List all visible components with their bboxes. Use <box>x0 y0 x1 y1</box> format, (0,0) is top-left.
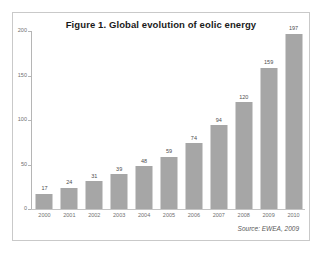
bar[interactable] <box>210 125 227 209</box>
bar[interactable] <box>136 166 153 209</box>
x-axis-tick-label: 2010 <box>287 213 299 219</box>
bar-group[interactable]: 242001 <box>57 31 82 209</box>
bar[interactable] <box>111 174 128 209</box>
figure-frame: Figure 1. Global evolution of eolic ener… <box>12 12 310 241</box>
x-axis-tick-label: 2009 <box>263 213 275 219</box>
x-axis-tick-label: 2004 <box>138 213 150 219</box>
chart-title: Figure 1. Global evolution of eolic ener… <box>13 19 309 30</box>
bar-group[interactable]: 172000 <box>32 31 57 209</box>
x-axis-tick-label: 2001 <box>63 213 75 219</box>
bar-value-label: 48 <box>141 159 147 165</box>
bar-value-label: 39 <box>116 167 122 173</box>
plot-area: 050100150200 172000242001312002392003482… <box>31 31 305 209</box>
bar[interactable] <box>86 181 103 209</box>
y-axis-tick-label: 150 <box>18 73 27 79</box>
bar[interactable] <box>61 188 78 209</box>
x-axis-tick-label: 2005 <box>163 213 175 219</box>
y-axis-tick-label: 200 <box>18 28 27 34</box>
x-axis-tick-label: 2006 <box>188 213 200 219</box>
y-axis-tick-label: 50 <box>21 162 27 168</box>
bar-group[interactable]: 1202008 <box>231 31 256 209</box>
x-axis-line <box>31 209 305 210</box>
bar-value-label: 159 <box>264 60 273 66</box>
bar-value-label: 31 <box>91 174 97 180</box>
y-axis-tick-label: 0 <box>24 206 27 212</box>
bar-value-label: 59 <box>166 149 172 155</box>
x-axis-tick-label: 2003 <box>113 213 125 219</box>
bar[interactable] <box>285 34 302 209</box>
bar-group[interactable]: 392003 <box>107 31 132 209</box>
bar-value-label: 17 <box>41 186 47 192</box>
bars-layer: 1720002420013120023920034820045920057420… <box>32 31 305 209</box>
bar-group[interactable]: 1972010 <box>281 31 306 209</box>
bar[interactable] <box>185 143 202 209</box>
bar-value-label: 24 <box>66 180 72 186</box>
y-axis-tick-label: 100 <box>18 117 27 123</box>
bar-group[interactable]: 592005 <box>157 31 182 209</box>
bar-group[interactable]: 482004 <box>132 31 157 209</box>
bar-group[interactable]: 312002 <box>82 31 107 209</box>
bar-value-label: 74 <box>191 136 197 142</box>
x-axis-tick-label: 2002 <box>88 213 100 219</box>
bar-group[interactable]: 742006 <box>181 31 206 209</box>
x-axis-tick-label: 2007 <box>213 213 225 219</box>
bar[interactable] <box>36 194 53 209</box>
bar-value-label: 94 <box>216 118 222 124</box>
bar-value-label: 197 <box>289 26 298 32</box>
bar-group[interactable]: 1592009 <box>256 31 281 209</box>
bar-group[interactable]: 942007 <box>206 31 231 209</box>
bar[interactable] <box>235 102 252 209</box>
x-axis-tick-label: 2008 <box>238 213 250 219</box>
bar-value-label: 120 <box>239 95 248 101</box>
bar[interactable] <box>160 157 177 210</box>
x-axis-tick-label: 2000 <box>38 213 50 219</box>
bar[interactable] <box>260 68 277 210</box>
source-note: Source: EWEA, 2009 <box>238 225 299 232</box>
